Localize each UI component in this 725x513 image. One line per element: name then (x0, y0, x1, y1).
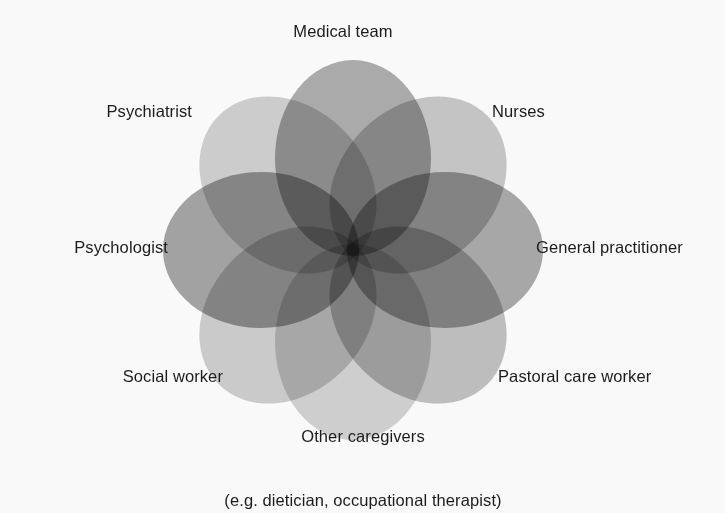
label-social-worker: Social worker (123, 366, 223, 387)
label-general-practitioner: General practitioner (536, 237, 683, 258)
label-other-caregivers: Other caregivers (e.g. dietician, occupa… (224, 384, 501, 513)
label-other-caregivers-line1: Other caregivers (224, 426, 501, 447)
label-psychiatrist: Psychiatrist (106, 101, 192, 122)
label-other-caregivers-line2: (e.g. dietician, occupational therapist) (224, 489, 501, 510)
label-pastoral-care-worker: Pastoral care worker (498, 366, 651, 387)
label-nurses: Nurses (492, 101, 545, 122)
label-medical-team: Medical team (293, 21, 392, 42)
label-psychologist: Psychologist (74, 237, 168, 258)
